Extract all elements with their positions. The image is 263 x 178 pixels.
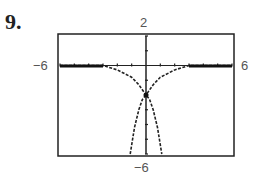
- intersection-point: [144, 93, 149, 98]
- graph-window: [0, 0, 263, 178]
